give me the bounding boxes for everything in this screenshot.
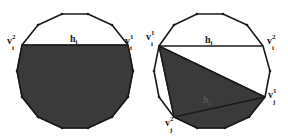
right-label-vi1-sub: i — [151, 40, 153, 48]
right-label-vj1-sub: j — [272, 98, 275, 106]
right-label-vi2-sub: i — [272, 44, 274, 52]
right-label-hi: hi — [205, 34, 213, 47]
diagram-canvas: hi v2 i v1 i hi hj — [0, 0, 288, 139]
left-label-hi: hi — [70, 33, 78, 46]
left-shaded-region — [17, 45, 133, 128]
right-label-vj2-sub: j — [169, 126, 172, 134]
right-polygon: hi hj v1 i v2 i v1 j v2 j — [146, 13, 277, 134]
left-label-vi2-sub: i — [12, 44, 14, 52]
left-polygon: hi v2 i v1 i — [7, 13, 134, 130]
left-label-vi1-sub: i — [130, 44, 132, 52]
